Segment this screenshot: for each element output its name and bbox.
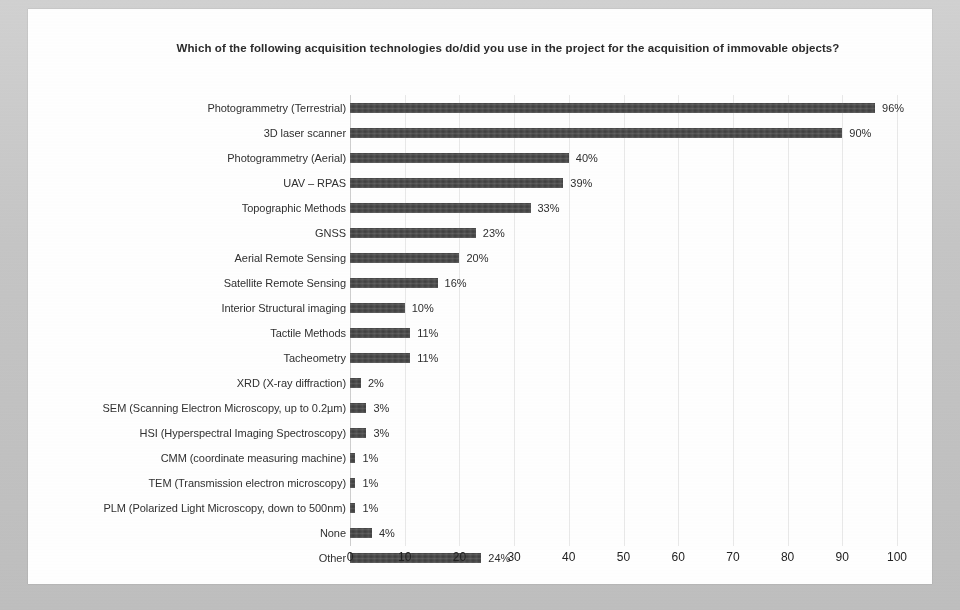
- bar-group: 11%: [350, 320, 438, 345]
- x-tick-label: 30: [507, 550, 520, 564]
- bar[interactable]: [350, 528, 372, 538]
- bar-group: 96%: [350, 95, 904, 120]
- x-tick-label: 60: [672, 550, 685, 564]
- bar-row: CMM (coordinate measuring machine)1%: [28, 445, 932, 470]
- bar-row: TEM (Transmission electron microscopy)1%: [28, 470, 932, 495]
- bar-value-label: 90%: [849, 127, 871, 139]
- bar-row: XRD (X-ray diffraction)2%: [28, 370, 932, 395]
- bar[interactable]: [350, 453, 355, 463]
- bar[interactable]: [350, 178, 563, 188]
- bar-row: GNSS23%: [28, 220, 932, 245]
- bar-group: 23%: [350, 220, 505, 245]
- bar-value-label: 4%: [379, 527, 395, 539]
- x-tick-label: 70: [726, 550, 739, 564]
- bar-group: 10%: [350, 295, 434, 320]
- bar-row: Tactile Methods11%: [28, 320, 932, 345]
- x-tick-label: 100: [887, 550, 907, 564]
- bar-rows: Photogrammetry (Terrestrial)96%3D laser …: [28, 95, 932, 570]
- category-label: Topographic Methods: [46, 202, 346, 214]
- bar-value-label: 2%: [368, 377, 384, 389]
- bar[interactable]: [350, 128, 842, 138]
- bar-group: 90%: [350, 120, 871, 145]
- bar-group: 1%: [350, 445, 378, 470]
- bar-group: 2%: [350, 370, 384, 395]
- bar-group: 20%: [350, 245, 488, 270]
- category-label: HSI (Hyperspectral Imaging Spectroscopy): [46, 427, 346, 439]
- bar[interactable]: [350, 503, 355, 513]
- bar-value-label: 1%: [362, 502, 378, 514]
- x-tick-label: 20: [453, 550, 466, 564]
- bar-row: Photogrammetry (Terrestrial)96%: [28, 95, 932, 120]
- category-label: Tacheometry: [46, 352, 346, 364]
- bar-value-label: 40%: [576, 152, 598, 164]
- bar-group: 3%: [350, 395, 389, 420]
- category-label: PLM (Polarized Light Microscopy, down to…: [46, 502, 346, 514]
- bar-row: 3D laser scanner90%: [28, 120, 932, 145]
- bar[interactable]: [350, 278, 438, 288]
- bar[interactable]: [350, 428, 366, 438]
- bar[interactable]: [350, 353, 410, 363]
- bar-group: 1%: [350, 470, 378, 495]
- bar-row: Aerial Remote Sensing20%: [28, 245, 932, 270]
- x-tick-label: 0: [347, 550, 354, 564]
- category-label: Photogrammetry (Terrestrial): [46, 102, 346, 114]
- category-label: Satellite Remote Sensing: [46, 277, 346, 289]
- category-label: GNSS: [46, 227, 346, 239]
- category-label: 3D laser scanner: [46, 127, 346, 139]
- bar-value-label: 33%: [538, 202, 560, 214]
- category-label: Interior Structural imaging: [46, 302, 346, 314]
- bar-row: None4%: [28, 520, 932, 545]
- bar[interactable]: [350, 153, 569, 163]
- bar-value-label: 20%: [466, 252, 488, 264]
- bar-value-label: 96%: [882, 102, 904, 114]
- bar-row: UAV – RPAS39%: [28, 170, 932, 195]
- x-tick-label: 90: [836, 550, 849, 564]
- bar-group: 33%: [350, 195, 560, 220]
- chart-title: Which of the following acquisition techn…: [158, 40, 858, 57]
- bar-row: Tacheometry11%: [28, 345, 932, 370]
- x-axis: 0102030405060708090100: [350, 547, 897, 569]
- category-label: Photogrammetry (Aerial): [46, 152, 346, 164]
- bar-value-label: 1%: [362, 452, 378, 464]
- category-label: Other: [46, 552, 346, 564]
- bar[interactable]: [350, 328, 410, 338]
- plot-area: Photogrammetry (Terrestrial)96%3D laser …: [28, 95, 932, 555]
- bar-row: Satellite Remote Sensing16%: [28, 270, 932, 295]
- bar[interactable]: [350, 403, 366, 413]
- bar[interactable]: [350, 303, 405, 313]
- scanned-page: Which of the following acquisition techn…: [0, 0, 960, 610]
- category-label: TEM (Transmission electron microscopy): [46, 477, 346, 489]
- bar[interactable]: [350, 228, 476, 238]
- bar[interactable]: [350, 253, 459, 263]
- bar-group: 1%: [350, 495, 378, 520]
- bar-row: HSI (Hyperspectral Imaging Spectroscopy)…: [28, 420, 932, 445]
- category-label: Tactile Methods: [46, 327, 346, 339]
- bar-value-label: 10%: [412, 302, 434, 314]
- bar[interactable]: [350, 103, 875, 113]
- category-label: XRD (X-ray diffraction): [46, 377, 346, 389]
- bar-group: 40%: [350, 145, 598, 170]
- category-label: None: [46, 527, 346, 539]
- x-tick-label: 80: [781, 550, 794, 564]
- bar[interactable]: [350, 378, 361, 388]
- x-tick-label: 40: [562, 550, 575, 564]
- bar-value-label: 3%: [373, 402, 389, 414]
- bar-group: 11%: [350, 345, 438, 370]
- bar-group: 4%: [350, 520, 395, 545]
- category-label: SEM (Scanning Electron Microscopy, up to…: [46, 402, 346, 414]
- bar-row: Photogrammetry (Aerial)40%: [28, 145, 932, 170]
- bar-value-label: 11%: [417, 327, 438, 339]
- bar-row: PLM (Polarized Light Microscopy, down to…: [28, 495, 932, 520]
- bar-row: SEM (Scanning Electron Microscopy, up to…: [28, 395, 932, 420]
- bar-value-label: 11%: [417, 352, 438, 364]
- category-label: CMM (coordinate measuring machine): [46, 452, 346, 464]
- bar[interactable]: [350, 203, 531, 213]
- x-tick-label: 10: [398, 550, 411, 564]
- category-label: Aerial Remote Sensing: [46, 252, 346, 264]
- bar-value-label: 3%: [373, 427, 389, 439]
- x-tick-label: 50: [617, 550, 630, 564]
- bar[interactable]: [350, 478, 355, 488]
- bar-value-label: 39%: [570, 177, 592, 189]
- bar-group: 3%: [350, 420, 389, 445]
- bar-value-label: 1%: [362, 477, 378, 489]
